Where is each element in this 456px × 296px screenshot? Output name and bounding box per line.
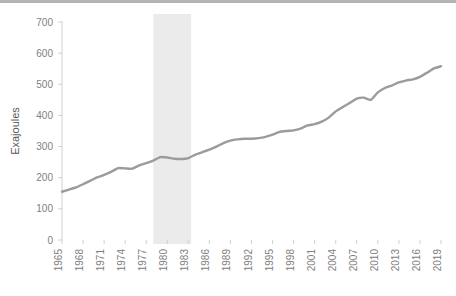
- x-tick-label: 2010: [369, 249, 380, 272]
- x-tick-label: 2001: [306, 249, 317, 272]
- data-series-group: [62, 66, 441, 192]
- x-tick-label: 2016: [411, 249, 422, 272]
- y-tick-label: 700: [36, 17, 53, 28]
- x-tick-label: 1974: [116, 249, 127, 272]
- y-tick-label: 200: [36, 172, 53, 183]
- axis-title-group: Exajoules: [9, 107, 21, 155]
- highlight-band: [153, 14, 191, 244]
- x-tick-marks: [62, 240, 441, 244]
- y-tick-labels: 0100200300400500600700: [36, 17, 53, 246]
- x-tick-labels: 1965196819711974197719801983198619891992…: [53, 249, 443, 272]
- x-tick-label: 2004: [327, 249, 338, 272]
- x-tick-label: 1986: [200, 249, 211, 272]
- y-tick-label: 600: [36, 48, 53, 59]
- x-axis-group: 1965196819711974197719801983198619891992…: [53, 240, 443, 271]
- x-tick-label: 1989: [221, 249, 232, 272]
- y-tick-label: 400: [36, 110, 53, 121]
- x-tick-label: 1971: [95, 249, 106, 272]
- y-tick-label: 100: [36, 203, 53, 214]
- y-tick-label: 300: [36, 141, 53, 152]
- y-tick-label: 0: [47, 235, 53, 246]
- x-tick-label: 1977: [137, 249, 148, 272]
- x-tick-label: 2013: [390, 249, 401, 272]
- x-tick-label: 1995: [264, 249, 275, 272]
- x-tick-label: 1968: [74, 249, 85, 272]
- x-tick-label: 2007: [348, 249, 359, 272]
- x-tick-label: 1983: [179, 249, 190, 272]
- data-line-primary-energy: [62, 66, 441, 192]
- chart-container: 0100200300400500600700 19651968197119741…: [0, 0, 456, 296]
- y-axis-title: Exajoules: [9, 107, 21, 155]
- x-tick-label: 2019: [432, 249, 443, 272]
- shaded-band-group: [153, 14, 191, 244]
- x-tick-label: 1992: [243, 249, 254, 272]
- y-tick-label: 500: [36, 79, 53, 90]
- y-tick-marks: [58, 22, 62, 240]
- x-tick-label: 1998: [285, 249, 296, 272]
- y-axis-group: 0100200300400500600700: [36, 17, 62, 246]
- x-tick-label: 1965: [53, 249, 64, 272]
- x-tick-label: 1980: [158, 249, 169, 272]
- line-chart-svg: 0100200300400500600700 19651968197119741…: [0, 0, 456, 296]
